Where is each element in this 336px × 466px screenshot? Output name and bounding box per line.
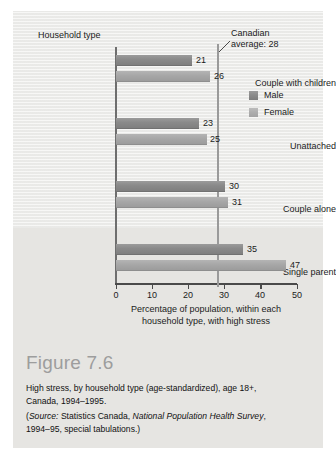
y-axis-title: Household type bbox=[38, 30, 101, 40]
bar-value-unattached-female: 25 bbox=[210, 134, 220, 144]
source-label: Source: bbox=[29, 411, 59, 421]
figure-caption-line1: High stress, by household type (age-stan… bbox=[26, 382, 296, 395]
bar-value-unattached-male: 23 bbox=[203, 118, 213, 128]
bar-chart: Household type 0 10 20 30 40 50 Canadian… bbox=[0, 0, 336, 340]
source-survey-title: National Population Health Survey bbox=[133, 411, 264, 421]
annotation-leader-line bbox=[219, 41, 231, 53]
legend-swatch-female-icon bbox=[249, 108, 258, 117]
bar-value-couple-with-children-female: 26 bbox=[214, 71, 224, 81]
bar-value-couple-with-children-male: 21 bbox=[196, 55, 206, 65]
canadian-average-line2: average: 28 bbox=[231, 39, 279, 50]
x-axis-title-line1: Percentage of population, within each bbox=[115, 304, 297, 316]
canadian-average-line1: Canadian bbox=[231, 28, 279, 39]
source-tail: , bbox=[263, 411, 265, 421]
bar-unattached-male bbox=[116, 118, 199, 129]
bar-couple-with-children-male bbox=[116, 55, 192, 66]
x-tick-50 bbox=[297, 284, 298, 289]
bar-single-parent-male bbox=[116, 244, 243, 255]
figure-number: Figure 7.6 bbox=[26, 352, 296, 374]
bar-value-single-parent-male: 35 bbox=[247, 244, 257, 254]
figure-caption-block: Figure 7.6 High stress, by household typ… bbox=[26, 352, 296, 435]
x-axis-title: Percentage of population, within each ho… bbox=[115, 304, 297, 327]
x-tick-30 bbox=[224, 284, 225, 289]
legend-label-female: Female bbox=[264, 107, 294, 117]
legend-item-female: Female bbox=[249, 105, 294, 119]
category-label-couple-alone: Couple alone bbox=[228, 204, 336, 214]
x-tick-label-50: 50 bbox=[292, 290, 302, 300]
legend-label-male: Male bbox=[264, 90, 284, 100]
figure-caption-text: High stress, by household type (age-stan… bbox=[26, 382, 296, 407]
figure-caption-line2: Canada, 1994–1995. bbox=[26, 395, 296, 408]
x-tick-0 bbox=[116, 284, 117, 289]
bar-value-couple-alone-female: 31 bbox=[232, 197, 242, 207]
x-tick-label-30: 30 bbox=[219, 290, 229, 300]
x-axis-title-line2: household type, with high stress bbox=[115, 316, 297, 328]
x-tick-label-40: 40 bbox=[255, 290, 265, 300]
bar-single-parent-female bbox=[116, 260, 286, 271]
bar-value-couple-alone-male: 30 bbox=[229, 181, 239, 191]
figure-source-text: (Source: Statistics Canada, National Pop… bbox=[26, 410, 296, 435]
figure-source-line2: 1994–95, special tabulations.) bbox=[26, 423, 296, 436]
category-label-unattached: Unattached bbox=[228, 141, 336, 151]
category-label-couple-with-children: Couple with children bbox=[228, 78, 336, 88]
canadian-average-annotation: Canadian average: 28 bbox=[231, 28, 279, 50]
bar-couple-alone-female bbox=[116, 197, 228, 208]
figure-source-line1: (Source: Statistics Canada, National Pop… bbox=[26, 410, 296, 423]
x-tick-10 bbox=[152, 284, 153, 289]
chart-legend: Male Female bbox=[249, 88, 294, 122]
legend-item-male: Male bbox=[249, 88, 294, 102]
x-axis-line bbox=[115, 283, 297, 285]
x-tick-20 bbox=[188, 284, 189, 289]
bar-value-single-parent-female: 47 bbox=[290, 260, 300, 270]
figure-container: Household type 0 10 20 30 40 50 Canadian… bbox=[0, 0, 336, 466]
x-tick-label-10: 10 bbox=[147, 290, 157, 300]
x-tick-40 bbox=[260, 284, 261, 289]
bar-couple-alone-male bbox=[116, 181, 225, 192]
x-tick-label-20: 20 bbox=[183, 290, 193, 300]
bar-couple-with-children-female bbox=[116, 71, 210, 82]
legend-swatch-male-icon bbox=[249, 91, 258, 100]
source-agency: Statistics Canada, bbox=[59, 411, 133, 421]
bar-unattached-female bbox=[116, 134, 207, 145]
x-tick-label-0: 0 bbox=[113, 290, 118, 300]
